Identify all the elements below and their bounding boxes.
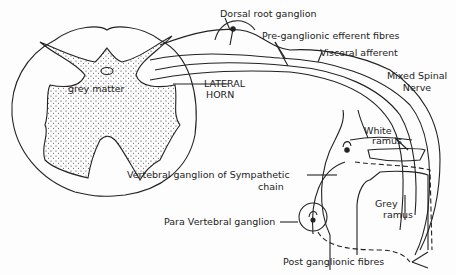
label-mixed-spinal-nerve-2: Nerve xyxy=(382,82,452,93)
label-vertebral-ganglion-1: Vertebral ganglion of Sympathetic xyxy=(127,169,290,180)
label-lateral-horn-1: LATERAL xyxy=(204,78,245,89)
label-preganglionic-fibres: Pre-ganglionic efferent fibres xyxy=(262,30,399,41)
label-dorsal-root-ganglion: Dorsal root ganglion xyxy=(220,8,317,19)
label-grey-ramus-2: ramus xyxy=(383,209,413,220)
spinal-nerve-diagram: Dorsal root ganglion Pre-ganglionic effe… xyxy=(0,0,456,275)
label-post-ganglionic-fibres: Post ganglionic fibres xyxy=(283,256,384,267)
label-visceral-afferent: Visceral afferent xyxy=(320,47,398,58)
label-grey-ramus-1: Grey xyxy=(375,198,398,209)
grey-matter xyxy=(40,36,180,180)
label-vertebral-ganglion-2: chain xyxy=(258,181,284,192)
label-white-ramus-2: ramus xyxy=(372,135,402,146)
label-mixed-spinal-nerve-1: Mixed Spinal xyxy=(382,70,452,81)
label-lateral-horn-2: HORN xyxy=(206,89,234,100)
label-para-vertebral-ganglion: Para Vertebral ganglion xyxy=(164,216,275,227)
label-grey-matter: grey matter xyxy=(68,83,125,94)
